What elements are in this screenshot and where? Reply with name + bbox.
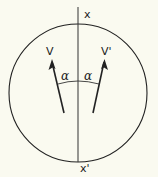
axis-bottom-label: x': [80, 162, 90, 175]
vector-v-arrowhead-icon: [49, 59, 56, 70]
vector-v-label: V: [46, 45, 54, 58]
vector-v-prime-arrowhead-icon: [101, 59, 108, 70]
reflection-diagram: x x' V V' α α: [0, 0, 158, 177]
diagram-canvas: x x' V V' α α: [0, 0, 158, 177]
vector-v-prime-label: V': [101, 45, 112, 58]
angle-left-label: α: [61, 69, 69, 83]
vector-v-prime-arrow: [93, 62, 104, 113]
axis-top-label: x: [84, 8, 91, 21]
angle-right-label: α: [84, 69, 92, 83]
